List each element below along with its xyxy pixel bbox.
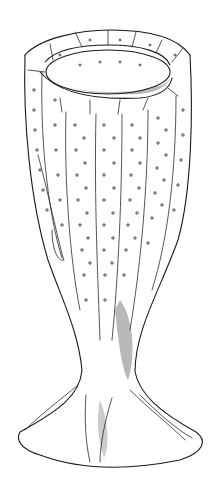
base-folds: [25, 385, 192, 462]
rim: [25, 30, 190, 114]
osculum: [46, 50, 170, 94]
vertical-ribs: [38, 72, 176, 340]
sponge-illustration: [0, 0, 217, 482]
pores: [33, 39, 184, 301]
body-outline: [18, 55, 202, 467]
illustration-canvas: [0, 0, 217, 482]
